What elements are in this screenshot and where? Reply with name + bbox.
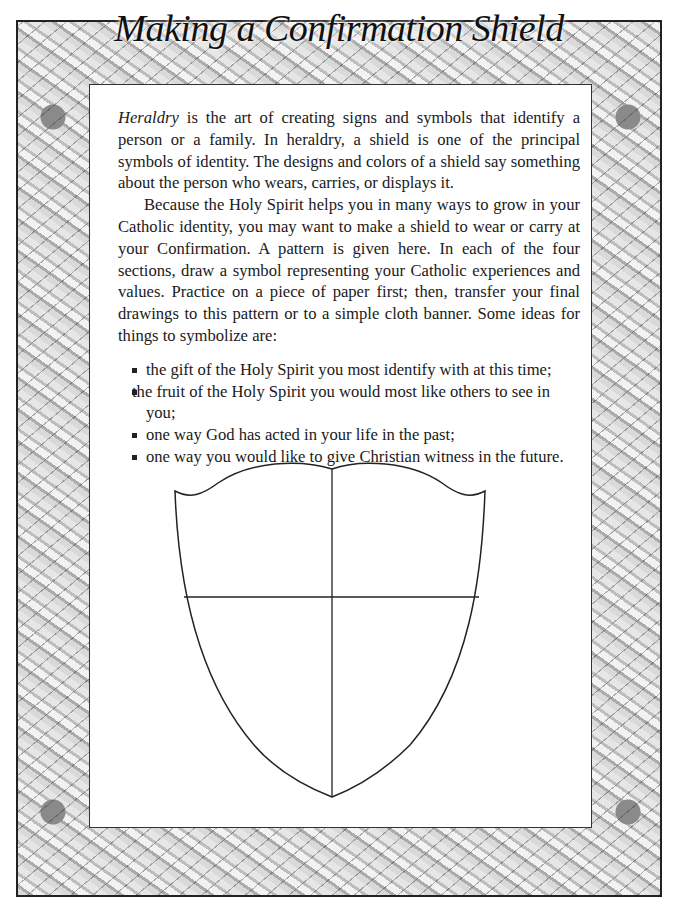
paragraph-instructions: Because the Holy Spirit helps you in man… <box>118 194 580 347</box>
paragraph-heraldry-text: is the art of creating signs and symbols… <box>118 108 580 192</box>
body-text: Heraldry is the art of creating signs an… <box>118 107 580 468</box>
shield-outline <box>175 463 485 797</box>
shield-pattern <box>170 455 490 805</box>
heraldry-term: Heraldry <box>118 108 179 127</box>
list-item: the gift of the Holy Spirit you most ide… <box>132 359 580 381</box>
paragraph-heraldry: Heraldry is the art of creating signs an… <box>118 107 580 194</box>
list-item: the fruit of the Holy Spirit you would m… <box>132 381 580 425</box>
list-item: one way God has acted in your life in th… <box>132 424 580 446</box>
ideas-list: the gift of the Holy Spirit you most ide… <box>118 359 580 468</box>
page-title: Making a Confirmation Shield <box>0 6 678 50</box>
